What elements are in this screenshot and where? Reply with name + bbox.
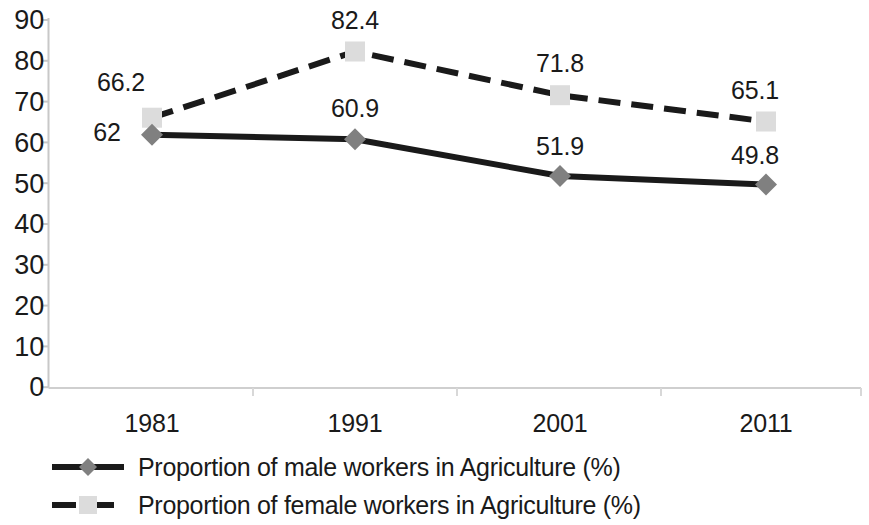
y-tick-label-50: 50 <box>0 171 44 198</box>
x-axis-ticks <box>253 388 861 396</box>
y-tick-label-0: 0 <box>0 374 44 401</box>
data-label-male-1981: 62 <box>52 120 162 145</box>
y-tick-label-10: 10 <box>0 334 44 361</box>
data-label-female-2011: 65.1 <box>700 78 810 103</box>
legend-item-male[interactable]: Proportion of male workers in Agricultur… <box>50 448 850 486</box>
y-tick-label-20: 20 <box>0 293 44 320</box>
data-label-female-1991: 82.4 <box>300 8 410 33</box>
legend-marker-male-diamond-icon <box>50 455 126 479</box>
y-tick-label-30: 30 <box>0 252 44 279</box>
data-label-female-1981: 66.2 <box>66 70 176 95</box>
data-label-female-2001: 71.8 <box>505 51 615 76</box>
legend-label-female: Proportion of female workers in Agricult… <box>138 493 641 518</box>
data-label-male-2011: 49.8 <box>700 143 810 168</box>
y-tick-label-90: 90 <box>0 7 44 34</box>
series-line-female <box>152 52 766 122</box>
x-tick-label-1981: 1981 <box>92 411 212 436</box>
data-label-male-1991: 60.9 <box>300 96 410 121</box>
x-tick-label-2011: 2011 <box>706 411 826 436</box>
x-tick-label-2001: 2001 <box>500 411 620 436</box>
series-markers-female <box>142 42 776 132</box>
y-tick-label-70: 70 <box>0 89 44 116</box>
data-label-male-2001: 51.9 <box>505 134 615 159</box>
y-tick-label-80: 80 <box>0 48 44 75</box>
legend-marker-female-square-icon <box>50 493 126 517</box>
legend-label-male: Proportion of male workers in Agricultur… <box>138 455 621 480</box>
y-tick-label-40: 40 <box>0 211 44 238</box>
series-line-male <box>152 135 766 185</box>
chart-legend: Proportion of male workers in Agricultur… <box>50 448 850 524</box>
legend-item-female[interactable]: Proportion of female workers in Agricult… <box>50 486 850 524</box>
y-tick-label-60: 60 <box>0 130 44 157</box>
x-tick-label-1991: 1991 <box>295 411 415 436</box>
line-chart: 90 80 70 60 50 40 30 20 10 0 1981 1991 2… <box>0 0 869 525</box>
